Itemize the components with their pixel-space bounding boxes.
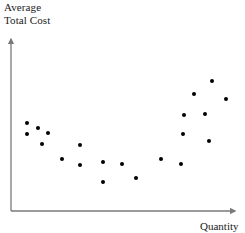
data-point	[60, 157, 64, 161]
data-point	[203, 112, 207, 116]
data-point	[78, 143, 82, 147]
data-point	[179, 162, 183, 166]
data-point	[120, 162, 124, 166]
plot-area	[0, 0, 245, 233]
data-point	[224, 97, 228, 101]
x-axis-label: Quantity	[200, 220, 239, 233]
data-point	[46, 131, 50, 135]
data-point	[101, 180, 105, 184]
data-point	[25, 132, 29, 136]
data-point	[40, 142, 44, 146]
data-point	[207, 139, 211, 143]
data-point	[210, 79, 214, 83]
data-point	[192, 92, 196, 96]
data-point	[181, 132, 185, 136]
data-point	[101, 160, 105, 164]
data-point	[36, 126, 40, 130]
data-point	[25, 121, 29, 125]
average-total-cost-scatter-figure: Average Total Cost Quantity	[0, 0, 245, 233]
data-point	[182, 113, 186, 117]
data-point	[134, 176, 138, 180]
data-point	[78, 163, 82, 167]
data-point	[159, 157, 163, 161]
